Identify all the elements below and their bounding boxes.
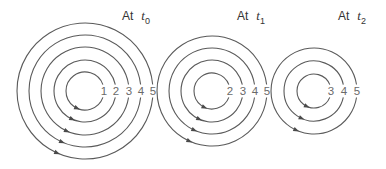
direction-arrow-icon — [186, 138, 192, 142]
orbit-ring-2 — [194, 73, 229, 109]
ring-number-4: 4 — [138, 85, 145, 97]
orbit-rings-diagram: 123452345345 — [0, 0, 386, 169]
direction-arrow-icon — [69, 116, 75, 120]
ring-number-1: 1 — [101, 85, 107, 97]
ring-number-2: 2 — [113, 85, 119, 97]
orbit-ring-4 — [29, 35, 141, 147]
ring-number-4: 4 — [252, 85, 259, 97]
ring-number-3: 3 — [126, 85, 132, 97]
ring-number-5: 5 — [264, 85, 270, 97]
time-subscript: 0 — [145, 16, 150, 26]
direction-arrow-icon — [196, 116, 202, 120]
label-prefix: At — [338, 9, 349, 23]
label-prefix: At — [122, 9, 133, 23]
direction-arrow-icon — [191, 127, 197, 131]
ring-number-5: 5 — [354, 85, 360, 97]
label-prefix: At — [237, 9, 248, 23]
direction-arrow-icon — [298, 115, 304, 119]
time-subscript: 2 — [361, 16, 366, 26]
direction-arrow-icon — [201, 104, 207, 108]
ring-number-5: 5 — [150, 85, 156, 97]
ring-number-3: 3 — [328, 85, 334, 97]
direction-arrow-icon — [293, 127, 299, 131]
direction-arrow-icon — [54, 150, 60, 154]
panel-t1: 2345 — [157, 36, 270, 146]
time-subscript: 1 — [260, 16, 265, 26]
direction-arrow-icon — [74, 105, 80, 109]
orbit-ring-4 — [284, 61, 343, 121]
orbit-ring-5 — [17, 23, 153, 159]
panel-t0: 12345 — [17, 23, 156, 159]
panel-t2: 345 — [271, 48, 360, 134]
direction-arrow-icon — [303, 103, 309, 107]
orbit-ring-5 — [157, 36, 267, 146]
ring-number-4: 4 — [341, 85, 348, 97]
time-label-t2: Att2 — [338, 8, 366, 25]
ring-number-2: 2 — [227, 85, 233, 97]
orbit-ring-3 — [297, 74, 330, 108]
direction-arrow-icon — [59, 139, 65, 143]
orbit-ring-1 — [66, 72, 103, 110]
direction-arrow-icon — [63, 128, 69, 132]
ring-number-3: 3 — [240, 85, 246, 97]
time-label-t1: Att1 — [237, 8, 265, 25]
time-label-t0: Att0 — [122, 8, 150, 25]
